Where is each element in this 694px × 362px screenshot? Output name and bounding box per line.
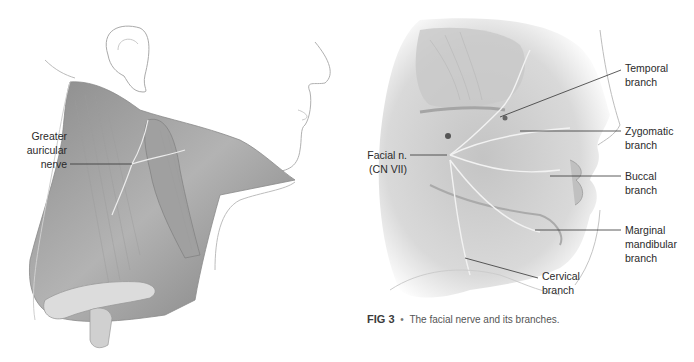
label-line: branch <box>625 138 673 152</box>
caption-text: The facial nerve and its branches. <box>409 314 559 325</box>
label-line: branch <box>625 183 657 197</box>
label-line: (CN VII) <box>367 162 407 176</box>
label-zygomatic-branch: Zygomatic branch <box>625 124 673 152</box>
label-facial-nerve: Facial n. (CN VII) <box>367 148 407 176</box>
label-greater-auricular-nerve: Greater auricular nerve <box>27 129 67 171</box>
figure-number: FIG 3 <box>367 313 395 325</box>
label-cervical-branch: Cervical branch <box>542 269 580 297</box>
label-line: Zygomatic <box>625 124 673 138</box>
label-line: Temporal <box>625 61 668 75</box>
label-line: Greater <box>27 129 67 143</box>
caption-bullet: • <box>400 314 404 325</box>
anatomy-illustrations <box>0 0 694 362</box>
label-line: branch <box>625 75 668 89</box>
label-line: Facial n. <box>367 148 407 162</box>
label-line: nerve <box>27 157 67 171</box>
label-buccal-branch: Buccal branch <box>625 169 657 197</box>
label-line: Marginal <box>625 223 677 237</box>
label-line: mandibular <box>625 237 677 251</box>
label-line: branch <box>625 251 677 265</box>
label-temporal-branch: Temporal branch <box>625 61 668 89</box>
neck-illustration <box>29 26 330 348</box>
label-line: auricular <box>27 143 67 157</box>
label-line: Buccal <box>625 169 657 183</box>
label-marginal-mandibular-branch: Marginal mandibular branch <box>625 223 677 265</box>
label-line: Cervical <box>542 269 580 283</box>
face-illustration <box>379 18 620 297</box>
figure-caption: FIG 3 • The facial nerve and its branche… <box>367 313 560 325</box>
label-line: branch <box>542 283 580 297</box>
